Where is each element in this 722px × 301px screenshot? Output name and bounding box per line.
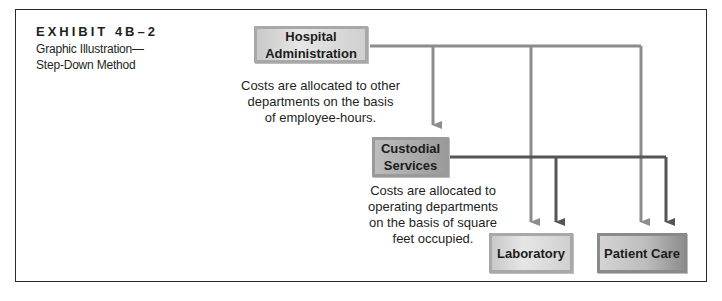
custodial-note-line: feet occupied. (358, 231, 508, 247)
admin-note-line: of employee-hours. (228, 110, 413, 126)
custodial-allocation-note: Costs are allocated to operating departm… (358, 183, 508, 247)
admin-note-line: Costs are allocated to other (228, 78, 413, 94)
laboratory-box: Laboratory (489, 233, 573, 273)
custodial-services-box: Custodial Services (372, 137, 449, 177)
patient-care-label: Patient Care (604, 245, 680, 262)
hospital-administration-line1: Hospital (285, 28, 336, 45)
hospital-administration-box: Hospital Administration (254, 26, 368, 63)
custodial-note-line: Costs are allocated to (358, 183, 508, 199)
admin-note-line: departments on the basis (228, 94, 413, 110)
custodial-note-line: on the basis of square (358, 215, 508, 231)
admin-allocation-note: Costs are allocated to other departments… (228, 78, 413, 126)
custodial-services-line2: Services (384, 157, 438, 174)
hospital-administration-line2: Administration (265, 45, 357, 62)
laboratory-label: Laboratory (497, 245, 565, 262)
patient-care-box: Patient Care (597, 233, 687, 273)
custodial-services-line1: Custodial (381, 140, 440, 157)
custodial-note-line: operating departments (358, 199, 508, 215)
